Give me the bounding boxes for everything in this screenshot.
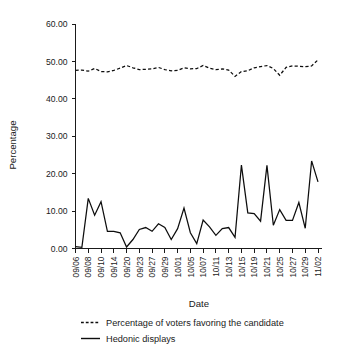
x-tick-label: 09/08	[83, 256, 93, 277]
y-tick-label: 10.00	[46, 206, 68, 216]
x-tick-label: 10/25	[275, 256, 285, 277]
y-tick-label: 40.00	[46, 94, 68, 104]
series-line-hedonic-displays	[76, 161, 319, 247]
x-tick-label: 10/19	[249, 256, 259, 277]
line-chart: 0.0010.0020.0030.0040.0050.0060.00 09/06…	[0, 0, 345, 359]
x-tick-label: 10/29	[300, 256, 310, 277]
legend-label-hedonic: Hedonic displays	[106, 334, 176, 344]
x-tick-label: 09/20	[122, 256, 132, 277]
x-tick-label: 10/21	[262, 256, 272, 277]
x-tick-label: 11/02	[313, 256, 323, 277]
x-tick-label: 10/07	[198, 256, 208, 277]
x-tick-label: 10/27	[288, 256, 298, 277]
x-tick-label: 09/23	[135, 256, 145, 277]
legend-label-voters: Percentage of voters favoring the candid…	[106, 318, 284, 328]
x-tick-label: 09/27	[147, 256, 157, 277]
x-tick-label: 10/15	[237, 256, 247, 277]
x-tick-label: 10/05	[186, 256, 196, 277]
x-tick-group: 09/0609/0809/1009/1409/2009/2309/2709/29…	[71, 249, 324, 278]
y-tick-label: 20.00	[46, 169, 68, 179]
figure-container: 0.0010.0020.0030.0040.0050.0060.00 09/06…	[0, 0, 345, 359]
x-tick-label: 09/29	[160, 256, 170, 277]
x-tick-label: 09/10	[96, 256, 106, 277]
x-tick-label: 10/01	[173, 256, 183, 277]
x-tick-label: 09/06	[71, 256, 81, 277]
x-tick-label: 10/13	[224, 256, 234, 277]
x-axis-title: Date	[189, 298, 209, 309]
y-tick-group: 0.0010.0020.0030.0040.0050.0060.00	[46, 19, 76, 254]
y-tick-label: 30.00	[46, 131, 68, 141]
legend: Percentage of voters favoring the candid…	[81, 318, 284, 344]
y-axis-title: Percentage	[7, 120, 18, 169]
y-tick-label: 60.00	[46, 19, 68, 29]
x-tick-label: 09/14	[109, 256, 119, 277]
y-tick-label: 50.00	[46, 57, 68, 67]
y-tick-label: 0.00	[51, 244, 68, 254]
series-line-percentage-of-voters	[76, 60, 319, 76]
x-tick-label: 10/11	[211, 256, 221, 277]
